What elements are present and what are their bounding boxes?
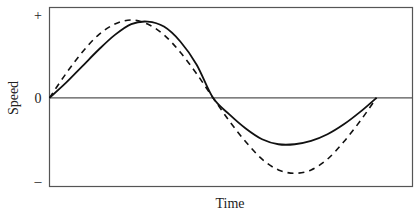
y-axis-label: Speed xyxy=(6,81,21,115)
speed-time-chart: +0– Time Speed xyxy=(0,0,418,216)
series-line-solid xyxy=(50,21,377,144)
x-axis-label: Time xyxy=(215,196,244,211)
plot-frame xyxy=(50,8,413,187)
y-tick-label: + xyxy=(34,8,42,23)
series-line-dashed xyxy=(50,20,377,173)
series-layer xyxy=(50,20,377,173)
y-tick-label: 0 xyxy=(35,91,42,106)
y-tick-label: – xyxy=(34,174,43,189)
y-tick-labels: +0– xyxy=(34,8,43,189)
